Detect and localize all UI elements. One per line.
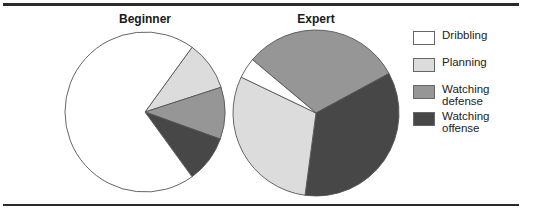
legend-label: Watchingdefense bbox=[442, 83, 490, 107]
legend-item-watching-offense: Watchingoffense bbox=[413, 110, 543, 137]
legend-swatch-watching-offense bbox=[413, 112, 435, 126]
legend-item-planning: Planning bbox=[413, 56, 543, 83]
legend-item-watching-defense: Watchingdefense bbox=[413, 83, 543, 110]
legend-label: Dribbling bbox=[442, 29, 487, 41]
legend-item-dribbling: Dribbling bbox=[413, 29, 543, 56]
legend: Dribbling Planning Watchingdefense Watch… bbox=[413, 29, 543, 137]
expert-title: Expert bbox=[297, 12, 334, 26]
legend-swatch-dribbling bbox=[413, 31, 435, 45]
legend-swatch-planning bbox=[413, 58, 435, 72]
beginner-pie bbox=[65, 32, 225, 192]
legend-swatch-watching-defense bbox=[413, 85, 435, 99]
legend-label: Watchingoffense bbox=[442, 110, 490, 134]
legend-label: Planning bbox=[442, 56, 487, 68]
expert-pie bbox=[233, 30, 399, 196]
beginner-title: Beginner bbox=[119, 12, 171, 26]
